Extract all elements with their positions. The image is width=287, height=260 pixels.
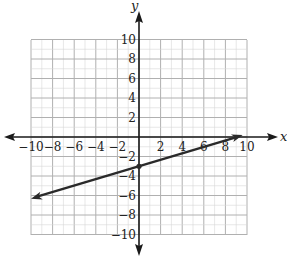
axes	[4, 11, 278, 256]
y-tick-label: −6	[118, 189, 136, 203]
x-tick-label: 2	[157, 140, 165, 154]
x-tick-label: 10	[239, 140, 254, 154]
x-tick-label: −8	[44, 140, 62, 154]
x-tick-label: −6	[65, 140, 83, 154]
x-axis-label: x	[280, 129, 287, 144]
x-tick-label: −4	[87, 140, 105, 154]
coordinate-plane: −10−8−6−4−2246810108642−2−4−6−8−10 x y	[0, 0, 287, 260]
y-tick-label: −8	[118, 208, 136, 222]
x-tick-label: −10	[18, 140, 43, 154]
plotted-line	[31, 134, 243, 199]
y-tick-label: 2	[128, 111, 136, 125]
y-tick-label: 8	[128, 52, 136, 66]
y-tick-label: 10	[121, 33, 136, 47]
y-tick-label: −10	[111, 228, 136, 242]
y-tick-label: 4	[128, 91, 136, 105]
y-axis-label: y	[130, 0, 139, 13]
y-tick-label: −2	[118, 150, 136, 164]
y-intercept-point	[136, 164, 141, 169]
y-tick-label: 6	[128, 72, 136, 86]
